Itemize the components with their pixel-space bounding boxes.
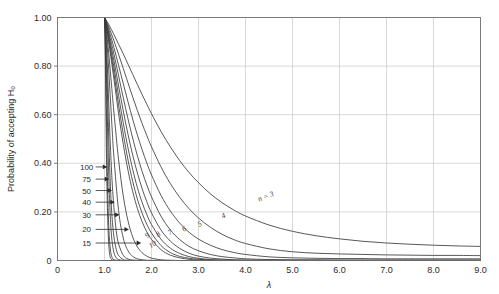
x-axis-title: λ <box>266 280 271 290</box>
x-tick-6: 6.0 <box>333 265 346 275</box>
y-tick-0: 0 <box>46 256 51 266</box>
x-tick-9: 9.0 <box>474 265 487 275</box>
y-tick-4: 0.80 <box>34 61 52 71</box>
annotation-label-15: 15 <box>82 239 91 248</box>
chart-figure: 100755040302015 n = 345678910 01.02.03.0… <box>0 0 499 294</box>
annotation-label-30: 30 <box>82 211 91 220</box>
oc-curve-chart: 100755040302015 n = 345678910 01.02.03.0… <box>0 0 499 294</box>
y-tick-5: 1.00 <box>34 13 52 23</box>
x-tick-4: 4.0 <box>239 265 252 275</box>
x-tick-3: 3.0 <box>192 265 205 275</box>
annotation-label-75: 75 <box>82 175 91 184</box>
x-tick-5: 5.0 <box>286 265 299 275</box>
y-tick-3: 0.60 <box>34 110 52 120</box>
annotation-label-20: 20 <box>82 225 91 234</box>
y-axis-title: Probability of accepting H₀ <box>6 86 16 192</box>
y-tick-1: 0.20 <box>34 207 52 217</box>
annotation-label-40: 40 <box>82 198 91 207</box>
annotation-label-50: 50 <box>82 187 91 196</box>
x-tick-0: 0 <box>55 265 60 275</box>
x-tick-1: 1.0 <box>98 265 111 275</box>
annotation-label-100: 100 <box>80 163 94 172</box>
y-tick-2: 0.40 <box>34 158 52 168</box>
x-tick-7: 7.0 <box>380 265 393 275</box>
x-tick-8: 8.0 <box>427 265 440 275</box>
x-tick-2: 2.0 <box>145 265 158 275</box>
chart-background <box>0 0 499 294</box>
